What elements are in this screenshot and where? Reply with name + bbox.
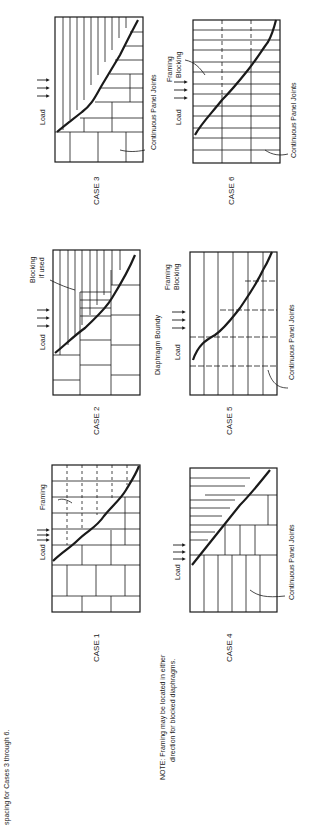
case-5-blocking-label: Blocking [173,263,181,290]
case-4-load-label: Load [174,564,181,580]
note-line-2: direction for blocked diaphragms. [169,659,177,762]
note: NOTE: Framing may be located in either d… [159,654,177,780]
case-1-framing-label: Framing [39,484,47,510]
case-5-load-arrows-icon [172,312,184,328]
case-3-label: CASE 3 [92,176,101,205]
case-5-diaphragm-boundary-label: Diaphragm Boundy [154,315,162,375]
case-3-panel-joints-label: Continuous Panel Joints [150,74,157,150]
case-6-panel-joints-label: Continuous Panel Joints [290,82,297,158]
note-line-1: NOTE: Framing may be located in either [159,654,167,780]
case-2-load-arrows-icon [37,310,48,326]
case-1-load-arrows-icon [37,530,48,540]
case-2-label: CASE 2 [92,406,101,435]
case-1-load-label: Load [39,544,46,560]
case-5-load-label: Load [174,344,181,360]
case-4-panel [190,468,285,612]
case-2-if-used-label: if used [38,257,45,278]
case-4-load-arrows-icon [173,545,184,559]
case-1-panel [52,465,140,612]
case-2-load-label: Load [39,334,46,350]
case-4-label: CASE 4 [225,633,234,662]
case-6-load-arrows-icon [174,82,186,98]
case-5-panel-joints-label: Continuous Panel Joints [288,304,295,380]
case-6-label: CASE 6 [227,176,236,205]
diaphragm-cases-figure: spacing for Cases 3 through 6. NOTE: Fra… [0,0,313,825]
case-5-framing-label: Framing [164,264,172,290]
case-5-label: CASE 5 [225,406,234,435]
case-6-blocking-label: Blocking [175,51,183,78]
case-4-panel-joints-label: Continuous Panel Joints [288,524,295,600]
case-2-blocking-label: Blocking [29,256,37,283]
case-2-panel [50,250,140,395]
cut-caption: spacing for Cases 3 through 6. [3,730,11,825]
case-6-panel [185,20,288,163]
case-3-load-label: Load [39,109,46,125]
case-5-panel [190,252,288,395]
case-6-load-label: Load [175,109,182,125]
case-1-label: CASE 1 [92,633,101,662]
case-3-load-arrows-icon [37,80,48,96]
case-3-panel [55,17,145,162]
case-6-framing-label: Framing [166,56,174,82]
